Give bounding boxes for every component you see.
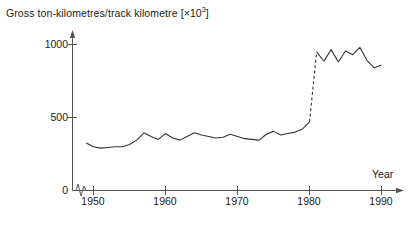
data-line-transition-dashed xyxy=(310,52,317,122)
data-series-group xyxy=(86,47,381,148)
y-axis-arrow xyxy=(70,30,75,38)
data-line-early xyxy=(86,122,309,148)
plot-area xyxy=(0,0,414,228)
axes xyxy=(68,30,404,196)
chart-container: Gross ton-kilometres/track kilometre [×1… xyxy=(0,0,414,228)
data-line-late xyxy=(317,47,382,67)
x-axis-arrow xyxy=(396,188,404,193)
